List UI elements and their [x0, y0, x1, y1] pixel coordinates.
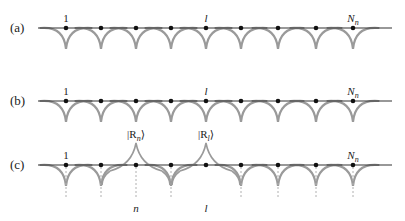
row-c	[38, 143, 392, 199]
lattice-site-dot	[64, 26, 69, 31]
orbital-arc	[291, 28, 342, 49]
site-label-last: Nn	[346, 85, 358, 100]
lattice-site-dot	[134, 163, 139, 168]
site-label-last: Nn	[346, 12, 358, 27]
lattice-site-dot	[204, 163, 209, 168]
row-a	[38, 26, 392, 49]
lattice-site-dot	[276, 99, 281, 104]
orbital-arc	[111, 101, 162, 122]
row-label: (a)	[10, 20, 24, 35]
lattice-diagram: (a)1lNn(b)1lNn(c)|Rn⟩n|Rl⟩l1Nn	[0, 0, 405, 221]
lattice-site-dot	[239, 26, 244, 31]
lattice-site-dot	[239, 163, 244, 168]
site-index-label: l	[204, 202, 207, 214]
lattice-site-dot	[204, 99, 209, 104]
lattice-figure: (a)1lNn(b)1lNn(c)|Rn⟩n|Rl⟩l1Nn	[0, 0, 405, 221]
lattice-site-dot	[99, 26, 104, 31]
orbital-arc	[216, 28, 267, 49]
lattice-site-dot	[99, 163, 104, 168]
site-index-label: n	[133, 202, 139, 214]
site-label-first: 1	[63, 149, 69, 161]
lattice-site-dot	[276, 26, 281, 31]
lattice-site-dot	[169, 163, 174, 168]
lattice-site-dot	[239, 99, 244, 104]
orbital-arc	[41, 28, 92, 49]
lattice-site-dot	[64, 163, 69, 168]
orbital-arc	[41, 101, 92, 122]
lattice-site-dot	[99, 99, 104, 104]
site-label-mid: l	[204, 12, 207, 24]
lattice-site-dot	[134, 99, 139, 104]
orbital-arc	[328, 28, 379, 49]
lattice-site-dot	[169, 26, 174, 31]
site-label-mid: l	[204, 85, 207, 97]
lattice-site-dot	[314, 26, 319, 31]
site-label-first: 1	[63, 85, 69, 97]
orbital-arc	[146, 28, 197, 49]
orbital-arc	[76, 28, 127, 49]
row-label: (c)	[10, 157, 24, 172]
lattice-site-dot	[169, 99, 174, 104]
orbital-arc	[253, 101, 304, 122]
site-label-first: 1	[63, 12, 69, 24]
orbital-arc	[181, 101, 232, 122]
orbital-arc	[111, 28, 162, 49]
lattice-site-dot	[314, 99, 319, 104]
orbital-arc	[146, 101, 197, 122]
ket-label: |Rl⟩	[198, 128, 214, 143]
row-b	[38, 99, 392, 122]
orbital-arc	[291, 101, 342, 122]
lattice-site-dot	[204, 26, 209, 31]
row-label: (b)	[10, 93, 25, 108]
lattice-site-dot	[314, 163, 319, 168]
lattice-site-dot	[64, 99, 69, 104]
lattice-site-dot	[134, 26, 139, 31]
orbital-arc	[181, 28, 232, 49]
lattice-site-dot	[276, 163, 281, 168]
orbital-arc	[76, 101, 127, 122]
orbital-arc	[253, 28, 304, 49]
orbital-arc	[328, 101, 379, 122]
site-label-last: Nn	[346, 149, 358, 164]
orbital-arc	[216, 101, 267, 122]
ket-label: |Rn⟩	[127, 128, 145, 143]
